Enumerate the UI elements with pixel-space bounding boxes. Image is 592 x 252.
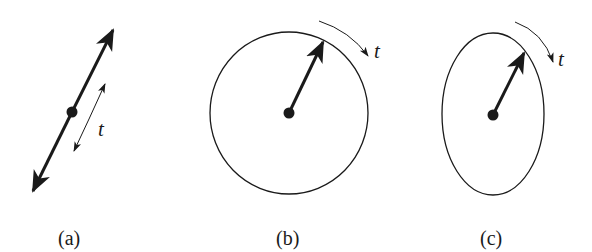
center-point — [284, 108, 295, 119]
origin-point — [67, 107, 78, 118]
panel-b: t (b) — [210, 21, 381, 250]
panel-label-c: (c) — [480, 227, 502, 250]
diagram-canvas: t (a) t (b) t (c) — [0, 0, 592, 252]
panel-a: t (a) — [33, 30, 113, 250]
panel-c: t (c) — [442, 22, 565, 250]
t-label-a: t — [98, 117, 105, 141]
panel-label-b: (b) — [276, 227, 299, 250]
t-double-arrow — [89, 84, 105, 119]
t-label-c: t — [558, 47, 565, 71]
radius-vector-arrow — [493, 53, 524, 115]
vector-up-arrow — [72, 30, 113, 112]
rotation-arrow — [319, 21, 368, 56]
center-point — [488, 110, 499, 121]
vector-down-arrow — [33, 112, 72, 191]
t-label-b: t — [374, 39, 381, 63]
t-double-arrow-lower — [74, 119, 89, 151]
panel-label-a: (a) — [58, 227, 80, 250]
radius-vector-arrow — [289, 42, 323, 113]
rotation-arrow — [515, 22, 553, 62]
